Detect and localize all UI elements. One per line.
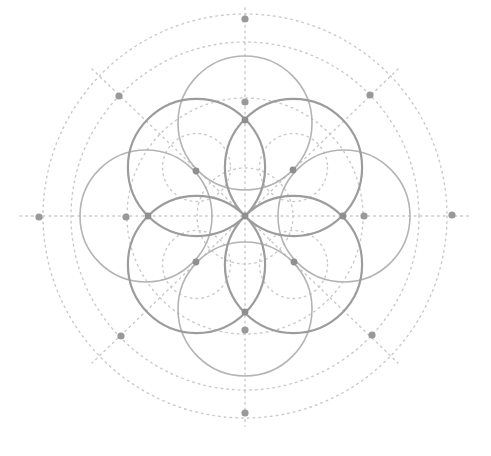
marker-dot-outer-left: [35, 213, 42, 220]
node-intersection-top-right: [290, 167, 297, 174]
marker-dot-diag-top-left: [115, 92, 122, 99]
node-center: [242, 213, 249, 220]
node-petal-bottom: [242, 309, 249, 316]
marker-dot-diag-bottom-right: [368, 331, 375, 338]
node-intersection-bottom-left: [193, 259, 200, 266]
marker-dot-inner-left: [122, 213, 129, 220]
marker-dot-inner-bottom: [241, 326, 248, 333]
seed-of-life-diagram: [0, 0, 491, 456]
marker-dot-outer-top: [241, 15, 248, 22]
marker-dot-outer-bottom: [241, 409, 248, 416]
node-petal-top: [242, 117, 249, 124]
marker-dot-diag-top-right: [366, 91, 373, 98]
marker-dot-inner-right: [360, 212, 367, 219]
node-intersection-top-left: [193, 168, 200, 175]
node-petal-right: [340, 213, 347, 220]
marker-dot-diag-bottom-left: [117, 332, 124, 339]
node-petal-left: [145, 213, 152, 220]
marker-dot-inner-top: [241, 98, 248, 105]
marker-dot-outer-right: [448, 211, 455, 218]
node-intersection-bottom-right: [291, 259, 298, 266]
